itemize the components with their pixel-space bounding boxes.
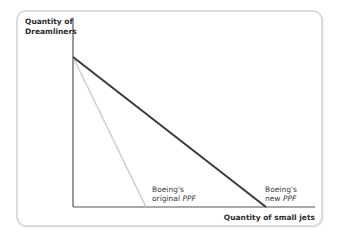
y-axis-label: Quantity of Dreamliners [25, 17, 73, 37]
original-ppf-line [73, 57, 146, 207]
new-ppf-annotation-line1: Boeing's [265, 185, 297, 194]
new-ppf-annotation: Boeing's new PPF [265, 185, 297, 203]
original-ppf-annotation-line2: original PPF [152, 194, 196, 203]
ppf-abbrev: PPF [283, 194, 296, 203]
new-text: new [265, 194, 283, 203]
original-text: original [152, 194, 182, 203]
x-axis-label: Quantity of small jets [224, 213, 315, 222]
original-ppf-annotation-line1: Boeing's [152, 185, 196, 194]
y-axis-label-line2: Dreamliners [25, 27, 73, 37]
original-ppf-annotation: Boeing's original PPF [152, 185, 196, 203]
ppf-abbrev: PPF [182, 194, 195, 203]
y-axis-label-line1: Quantity of [25, 17, 73, 27]
new-ppf-annotation-line2: new PPF [265, 194, 297, 203]
